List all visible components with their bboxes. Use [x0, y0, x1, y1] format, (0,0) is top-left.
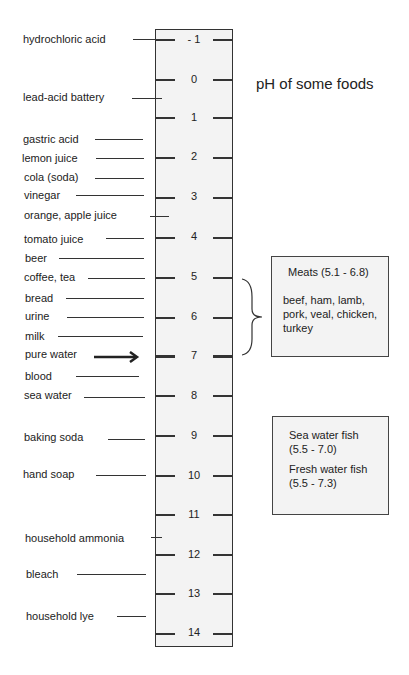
- leader-line: [108, 439, 145, 440]
- leader-line: [151, 537, 162, 538]
- tick-mark: [155, 593, 175, 595]
- leader-line: [67, 317, 144, 318]
- tick-mark: [213, 395, 233, 397]
- tick-mark: [155, 475, 175, 477]
- tick-mark: [213, 475, 233, 477]
- tick-mark: [155, 317, 175, 319]
- substance-label: household lye: [26, 610, 94, 622]
- tick-mark: [155, 435, 175, 437]
- substance-label: hydrochloric acid: [23, 33, 106, 45]
- tick-mark: [213, 79, 233, 81]
- arrow-icon: [94, 349, 140, 361]
- tick-mark: [213, 593, 233, 595]
- substance-label: urine: [25, 310, 49, 322]
- substance-label: baking soda: [24, 431, 83, 443]
- tick-label: 13: [179, 587, 209, 599]
- leader-line: [96, 158, 144, 159]
- tick-mark: [213, 197, 233, 199]
- tick-label: 3: [179, 190, 209, 202]
- leader-line: [59, 258, 144, 259]
- tick-label: 9: [179, 429, 209, 441]
- substance-label: hand soap: [23, 468, 74, 480]
- substance-label: sea water: [24, 389, 72, 401]
- diagram-title: pH of some foods: [256, 75, 374, 92]
- leader-line: [106, 238, 144, 239]
- tick-mark: [213, 237, 233, 239]
- tick-mark: [155, 277, 175, 279]
- tick-mark: [213, 514, 233, 516]
- tick-mark: [155, 79, 175, 81]
- tick-mark: [155, 554, 175, 556]
- leader-line: [95, 178, 144, 179]
- tick-label: 8: [179, 389, 209, 401]
- substance-label: coffee, tea: [24, 271, 75, 283]
- tick-mark: [213, 157, 233, 159]
- tick-mark-neutral: [213, 355, 233, 358]
- tick-mark: [155, 197, 175, 199]
- leader-line: [117, 616, 146, 617]
- tick-label: 7: [179, 349, 209, 361]
- tick-mark: [213, 117, 233, 119]
- tick-label: - 1: [179, 33, 209, 45]
- leader-line: [150, 216, 169, 217]
- substance-label: milk: [25, 330, 45, 342]
- sea-fish-range: (5.5 - 7.0): [289, 442, 388, 456]
- tick-label: 11: [179, 508, 209, 520]
- tick-label: 2: [179, 150, 209, 162]
- tick-mark: [155, 157, 175, 159]
- substance-label: cola (soda): [24, 171, 78, 183]
- tick-label: 5: [179, 270, 209, 282]
- leader-line: [76, 376, 139, 377]
- meats-heading: Meats (5.1 - 6.8): [283, 265, 388, 279]
- leader-line: [66, 298, 144, 299]
- substance-label: blood: [25, 370, 52, 382]
- leader-line: [88, 278, 145, 279]
- tick-label: 10: [179, 469, 209, 481]
- leader-line: [133, 39, 163, 40]
- tick-mark: [155, 514, 175, 516]
- substance-label: vinegar: [24, 189, 60, 201]
- tick-mark: [155, 633, 175, 635]
- substance-label: household ammonia: [25, 532, 124, 544]
- leader-line: [96, 475, 146, 476]
- tick-mark: [213, 435, 233, 437]
- substance-label: lemon juice: [22, 152, 78, 164]
- tick-mark: [213, 277, 233, 279]
- substance-label: pure water: [25, 348, 77, 360]
- meats-info-box: Meats (5.1 - 6.8) beef, ham, lamb, pork,…: [271, 256, 389, 357]
- substance-label: beer: [25, 252, 47, 264]
- tick-mark: [155, 237, 175, 239]
- leader-line: [77, 574, 146, 575]
- tick-label: 0: [179, 73, 209, 85]
- substance-label: orange, apple juice: [24, 209, 117, 221]
- tick-mark: [155, 117, 175, 119]
- leader-line: [58, 336, 143, 337]
- substance-label: bread: [25, 292, 53, 304]
- leader-line: [76, 195, 144, 196]
- meats-line-2: pork, veal, chicken,: [283, 307, 388, 321]
- tick-label: 14: [179, 626, 209, 638]
- fresh-fish-label: Fresh water fish: [289, 462, 388, 476]
- tick-label: 12: [179, 548, 209, 560]
- meats-line-1: beef, ham, lamb,: [283, 293, 388, 307]
- tick-mark: [213, 39, 233, 41]
- tick-mark: [155, 395, 175, 397]
- sea-fish-label: Sea water fish: [289, 428, 388, 442]
- meats-line-3: turkey: [283, 321, 388, 335]
- substance-label: lead-acid battery: [23, 91, 104, 103]
- tick-mark: [213, 554, 233, 556]
- leader-line: [95, 139, 143, 140]
- tick-mark-neutral: [155, 355, 175, 358]
- tick-label: 6: [179, 310, 209, 322]
- tick-mark: [213, 317, 233, 319]
- substance-label: bleach: [26, 568, 58, 580]
- tick-label: 4: [179, 230, 209, 242]
- substance-label: gastric acid: [23, 133, 79, 145]
- substance-label: tomato juice: [24, 233, 83, 245]
- brace-icon: [238, 277, 268, 357]
- tick-label: 1: [179, 111, 209, 123]
- leader-line: [132, 98, 162, 99]
- fresh-fish-range: (5.5 - 7.3): [289, 476, 388, 490]
- tick-mark: [213, 633, 233, 635]
- leader-line: [84, 397, 145, 398]
